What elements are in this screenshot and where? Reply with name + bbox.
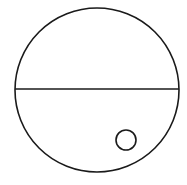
small-inner-circle bbox=[116, 130, 136, 150]
outer-circle bbox=[15, 8, 179, 172]
diagram-canvas bbox=[0, 0, 187, 185]
